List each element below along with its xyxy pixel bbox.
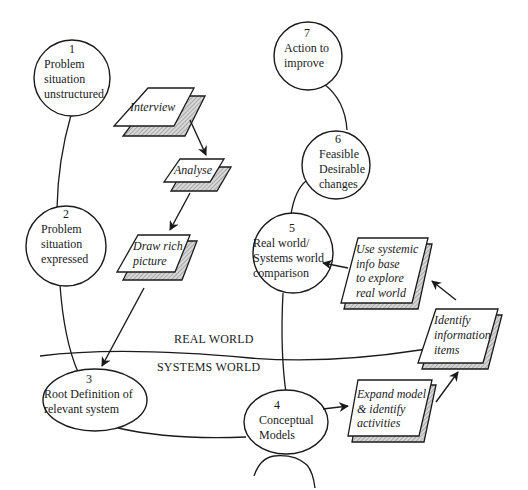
- arrow-identify-usesystemic: [432, 281, 456, 300]
- arrow-models-expand: [323, 406, 348, 409]
- stage-7-line-1: Action to: [280, 41, 340, 56]
- activity-expand-line-3: activities: [357, 416, 426, 431]
- stage-3-number: 3: [44, 372, 144, 387]
- stage-1-label: 1 Problem situation unstructured: [35, 42, 109, 102]
- activity-identify-line-3: items: [434, 343, 491, 358]
- activity-draw-rich-picture-label: Draw rich picture: [133, 239, 183, 269]
- stage-6-line-3: changes: [315, 177, 375, 192]
- arrow-draw-rootdef: [102, 288, 144, 366]
- activity-interview-label: Interview: [130, 100, 175, 115]
- activity-analyse-label: Analyse: [174, 163, 212, 178]
- stage-3-line-2: relevant system: [44, 402, 144, 417]
- activity-identify-line-1: Identify: [434, 313, 491, 328]
- activity-use-systemic-line-2: info base: [356, 257, 418, 272]
- stage-6-line-1: Feasible: [315, 147, 375, 162]
- stage-4-number: 4: [250, 398, 322, 413]
- stage-2-label: 2 Problem situation expressed: [28, 207, 104, 267]
- activity-expand-model-label: Expand model & identify activities: [357, 387, 426, 431]
- activity-draw-line-1: Draw rich: [133, 239, 183, 254]
- stage-2-number: 2: [28, 207, 104, 222]
- arrow-analyse-draw: [170, 193, 190, 230]
- world-divider-line: [40, 349, 430, 360]
- stage-4-label: 4 Conceptual Models: [250, 398, 322, 443]
- arrow-expand-identify: [436, 372, 458, 402]
- stage-4-line-1: Conceptual: [250, 413, 322, 428]
- connector-4-loop: [254, 456, 315, 488]
- stage-7-number: 7: [280, 26, 340, 41]
- stage-4-line-2: Models: [250, 428, 322, 443]
- stage-2-line-1: Problem: [28, 222, 104, 237]
- stage-7-line-2: improve: [280, 56, 340, 71]
- connector-1-2: [57, 115, 71, 208]
- stage-1-line-1: Problem: [35, 57, 109, 72]
- arrow-interview-analyse: [190, 120, 206, 155]
- connector-5-6: [291, 181, 306, 214]
- stage-5-line-3: comparison: [253, 266, 335, 281]
- connector-3-4: [118, 428, 246, 438]
- stage-5-label: 5 Real world/ Systems world comparison: [253, 221, 335, 281]
- stage-6-number: 6: [315, 132, 375, 147]
- activity-identify-line-2: information: [434, 328, 491, 343]
- stage-1-line-2: situation: [35, 72, 109, 87]
- stage-2-line-3: expressed: [28, 252, 104, 267]
- stage-2-line-2: situation: [28, 237, 104, 252]
- stage-5-line-2: Systems world: [253, 251, 335, 266]
- stage-3-label: 3 Root Definition of relevant system: [44, 372, 144, 417]
- stage-5-line-1: Real world/: [253, 236, 335, 251]
- activity-expand-line-2: & identify: [357, 402, 426, 417]
- stage-6-label: 6 Feasible Desirable changes: [315, 132, 375, 192]
- stage-6-line-2: Desirable: [315, 162, 375, 177]
- connector-2-3: [60, 285, 78, 372]
- activity-identify-label: Identify information items: [434, 313, 491, 358]
- activity-use-systemic-line-4: real world: [356, 286, 418, 301]
- stage-1-number: 1: [35, 42, 109, 57]
- stage-5-number: 5: [253, 221, 335, 236]
- activity-use-systemic-label: Use systemic info base to explore real w…: [356, 242, 418, 300]
- activity-use-systemic-line-3: to explore: [356, 271, 418, 286]
- activity-expand-line-1: Expand model: [357, 387, 426, 402]
- connector-5-4: [282, 293, 286, 393]
- systems-world-label: SYSTEMS WORLD: [157, 360, 260, 375]
- connector-7-6: [324, 84, 347, 130]
- stage-1-line-3: unstructured: [35, 87, 109, 102]
- activity-draw-line-2: picture: [133, 254, 183, 269]
- stage-3-line-1: Root Definition of: [44, 387, 144, 402]
- activity-use-systemic-line-1: Use systemic: [356, 242, 418, 257]
- stage-7-label: 7 Action to improve: [280, 26, 340, 71]
- real-world-label: REAL WORLD: [174, 332, 254, 347]
